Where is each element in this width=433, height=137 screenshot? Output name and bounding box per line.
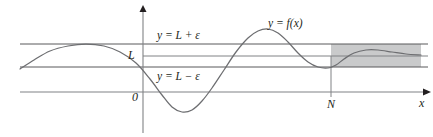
label-n: N (327, 98, 335, 110)
label-l-plus-epsilon: y = L + ε (157, 30, 200, 42)
label-origin: 0 (132, 91, 138, 103)
diagram-canvas (0, 0, 433, 137)
label-limit-l: L (128, 49, 135, 61)
label-x-axis: x (419, 97, 424, 109)
label-l-minus-epsilon: y = L − ε (157, 71, 200, 83)
function-curve (20, 29, 421, 112)
x-axis-arrow-icon (423, 89, 431, 96)
label-function-y-equals-f-x: y = f(x) (268, 18, 303, 30)
y-axis-arrow-icon (140, 5, 147, 12)
limit-diagram-figure: y = L + ε L y = L − ε y = f(x) 0 N x (0, 0, 433, 137)
